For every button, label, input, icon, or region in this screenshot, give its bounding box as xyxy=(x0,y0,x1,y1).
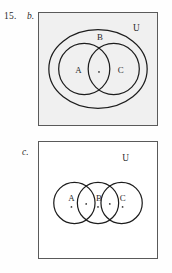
set-label-c: C xyxy=(118,65,124,75)
venn-b-svg: A C B U xyxy=(39,13,157,125)
element-dot xyxy=(71,206,73,208)
element-dot xyxy=(98,71,100,73)
element-dot xyxy=(85,203,87,205)
universe-label-b: U xyxy=(133,23,140,33)
set-label-a: A xyxy=(75,65,82,75)
page-canvas: 15. b. A C B U c. xyxy=(0,0,172,273)
part-label-b: b. xyxy=(27,12,34,22)
venn-c-svg: A B C U xyxy=(39,142,157,258)
set-label-a: A xyxy=(68,193,75,203)
set-label-c: C xyxy=(120,193,126,203)
problem-number: 15. xyxy=(4,12,16,22)
universe-label-c: U xyxy=(122,153,129,163)
venn-diagram-c: A B C U xyxy=(38,141,158,259)
set-label-b: B xyxy=(96,193,102,203)
venn-diagram-b: A C B U xyxy=(38,12,158,126)
set-outline-a xyxy=(59,43,110,94)
set-outline-c xyxy=(88,43,139,94)
set-label-b: B xyxy=(97,32,103,42)
part-label-c: c. xyxy=(22,148,29,158)
element-dot xyxy=(97,206,99,208)
element-dot xyxy=(109,203,111,205)
element-dot xyxy=(122,206,124,208)
